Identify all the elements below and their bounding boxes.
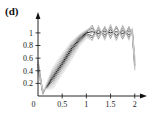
chart-line-4 [38,27,135,91]
y-tick-label: 0.4 [23,67,33,76]
y-axis-arrow-icon [36,12,41,19]
chart-line-11 [38,28,135,92]
x-tick-label: 1 [84,100,88,109]
figure-panel: (d) 00.511.52 0.20.40.60.81 [0,0,152,116]
x-tick-label: 1.5 [106,100,116,109]
y-tick-label: 0.2 [23,79,33,88]
x-axis-arrow-icon [140,94,147,99]
chart-line-7 [38,30,135,94]
curve-series-layer [38,24,135,95]
y-tick-label: 0.6 [23,54,33,63]
x-tick-label: 2 [133,100,137,109]
plot-area: 00.511.52 0.20.40.60.81 [0,0,152,116]
x-tick-label: 0.5 [57,100,67,109]
x-tick-label: 0 [32,100,36,109]
y-tick-label: 1 [29,29,33,38]
chart-line-9 [38,27,135,95]
y-tick-label: 0.8 [23,41,33,50]
